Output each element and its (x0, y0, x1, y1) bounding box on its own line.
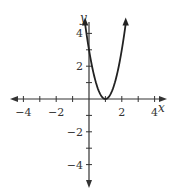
y-tick-label: −2 (67, 126, 83, 139)
x-tick-label: −2 (48, 106, 64, 119)
curve-right-arrow-icon (123, 18, 129, 26)
y-tick-label: −4 (67, 159, 83, 172)
x-tick-label: 2 (118, 106, 125, 119)
x-tick-label: −4 (15, 106, 31, 119)
x-axis-label: x (158, 101, 165, 115)
parabola-chart: −4−22442−2−4 x y (0, 0, 179, 193)
y-tick-label: 4 (76, 27, 83, 40)
y-axis-down-arrow-icon (86, 180, 92, 188)
y-tick-label: 2 (76, 60, 83, 73)
x-axis-left-arrow-icon (10, 96, 18, 102)
